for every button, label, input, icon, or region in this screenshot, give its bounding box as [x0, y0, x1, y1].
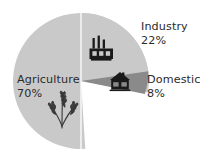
slice-label-agriculture-name: Agriculture [17, 73, 80, 86]
slice-label-industry-percent: 22% [141, 34, 188, 48]
slice-label-industry: Industry 22% [141, 20, 188, 47]
pie-chart-figure: Industry 22% Domestic 8% Agriculture 70% [0, 0, 202, 155]
slice-label-domestic: Domestic 8% [147, 73, 201, 100]
slice-label-agriculture-percent: 70% [17, 87, 80, 101]
slice-label-industry-name: Industry [141, 20, 188, 33]
slice-label-domestic-name: Domestic [147, 73, 201, 86]
slice-label-domestic-percent: 8% [147, 87, 201, 101]
slice-label-agriculture: Agriculture 70% [17, 73, 80, 100]
